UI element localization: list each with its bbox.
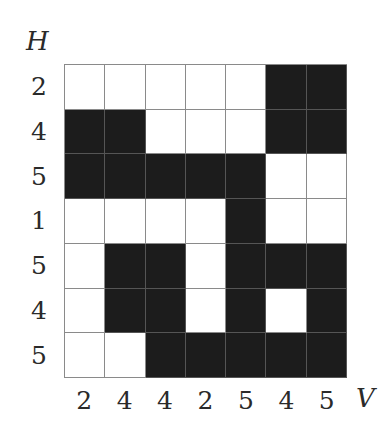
grid-cell-filled — [186, 333, 226, 378]
row-sum-7: 5 — [26, 333, 52, 378]
grid-cell-filled — [105, 154, 145, 199]
grid-cell-empty — [307, 199, 347, 244]
row-sum-1: 2 — [26, 64, 52, 109]
grid-cell-filled — [146, 289, 186, 334]
grid-cell-filled — [226, 244, 266, 289]
grid-cell-filled — [266, 333, 306, 378]
grid-cell-empty — [146, 199, 186, 244]
row-sum-5: 5 — [26, 243, 52, 288]
grid-cell-empty — [105, 199, 145, 244]
grid-cell-filled — [105, 244, 145, 289]
grid-cell-empty — [226, 65, 266, 110]
grid-cell-filled — [226, 289, 266, 334]
col-sum-1: 2 — [64, 383, 104, 417]
grid-cell-filled — [226, 199, 266, 244]
grid-cell-empty — [146, 65, 186, 110]
grid-cell-empty — [105, 333, 145, 378]
grid-cell-filled — [266, 65, 306, 110]
grid-cell-filled — [146, 244, 186, 289]
grid-cell-empty — [105, 65, 145, 110]
grid-cell-filled — [307, 110, 347, 155]
grid-cell-filled — [266, 244, 306, 289]
row-sum-labels: 2 4 5 1 5 4 5 — [26, 64, 52, 378]
grid-cell-empty — [65, 199, 105, 244]
grid-cell-empty — [226, 110, 266, 155]
grid-cell-filled — [226, 154, 266, 199]
grid-cell-empty — [307, 154, 347, 199]
grid-cell-filled — [65, 110, 105, 155]
grid-cell-empty — [65, 289, 105, 334]
grid-cell-filled — [307, 244, 347, 289]
grid-cell-empty — [186, 199, 226, 244]
grid-cell-filled — [186, 154, 226, 199]
grid-cell-filled — [105, 110, 145, 155]
col-sum-3: 4 — [145, 383, 185, 417]
grid-cell-empty — [186, 65, 226, 110]
grid-cell-filled — [146, 333, 186, 378]
column-sum-labels: 2 4 4 2 5 4 5 — [64, 383, 347, 417]
grid-cell-empty — [65, 65, 105, 110]
row-sum-3: 5 — [26, 154, 52, 199]
grid-cell-empty — [186, 289, 226, 334]
col-axis-label-v: V — [356, 385, 375, 411]
col-sum-2: 4 — [104, 383, 144, 417]
col-sum-6: 4 — [266, 383, 306, 417]
grid-cell-empty — [266, 154, 306, 199]
grid-cell-filled — [146, 154, 186, 199]
grid-cell-filled — [226, 333, 266, 378]
col-sum-7: 5 — [307, 383, 347, 417]
grid-cell-empty — [266, 289, 306, 334]
grid-cell-filled — [266, 110, 306, 155]
grid-cell-empty — [65, 244, 105, 289]
grid-cell-empty — [65, 333, 105, 378]
col-sum-4: 2 — [185, 383, 225, 417]
col-sum-5: 5 — [226, 383, 266, 417]
row-axis-label-h: H — [26, 28, 49, 54]
grid-cell-filled — [65, 154, 105, 199]
grid-cell-filled — [307, 65, 347, 110]
grid-cell-empty — [266, 199, 306, 244]
binary-grid — [64, 64, 347, 378]
row-sum-6: 4 — [26, 288, 52, 333]
grid-cell-empty — [186, 110, 226, 155]
row-sum-2: 4 — [26, 109, 52, 154]
grid-cell-filled — [307, 333, 347, 378]
grid-cell-empty — [186, 244, 226, 289]
grid-cell-filled — [307, 289, 347, 334]
row-sum-4: 1 — [26, 199, 52, 244]
grid-cell-filled — [105, 289, 145, 334]
grid-cell-empty — [146, 110, 186, 155]
